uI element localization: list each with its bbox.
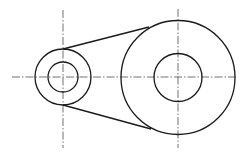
pulley-drawing	[0, 0, 245, 160]
